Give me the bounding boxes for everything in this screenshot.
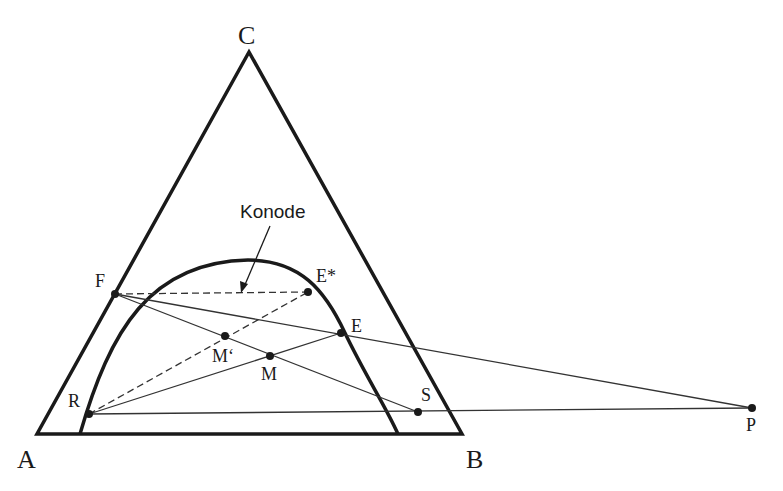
point-e-star: [304, 288, 312, 296]
point-label-p: P: [746, 415, 756, 435]
point-e: [337, 329, 345, 337]
point-f: [111, 290, 119, 298]
vertex-label-c: C: [238, 21, 255, 50]
point-label-s: S: [421, 385, 431, 405]
point-label-r: R: [68, 391, 80, 411]
point-label-e-star: E*: [316, 266, 336, 286]
point-m-prime: [221, 332, 229, 340]
point-label-m: M: [261, 364, 277, 384]
binodal-curve: [80, 260, 398, 434]
konode-arrow-head-icon: [240, 281, 248, 293]
vertex-label-a: A: [17, 445, 36, 474]
point-label-e: E: [351, 316, 362, 336]
tie-line-f-estar: [115, 292, 308, 294]
line-f-p: [115, 294, 752, 408]
point-r: [85, 410, 93, 418]
point-label-m-prime: M‘: [212, 346, 234, 366]
point-p: [748, 404, 756, 412]
dashed-line-r-estar: [89, 292, 308, 414]
point-label-f: F: [95, 271, 105, 291]
ternary-diagram: C A B F E* E M‘ M R S P Konode: [0, 0, 783, 491]
konode-arrow-shaft: [244, 226, 270, 287]
vertex-label-b: B: [466, 445, 483, 474]
line-f-s: [115, 294, 418, 412]
konode-label: Konode: [240, 201, 306, 222]
point-m: [266, 352, 274, 360]
point-s: [414, 408, 422, 416]
